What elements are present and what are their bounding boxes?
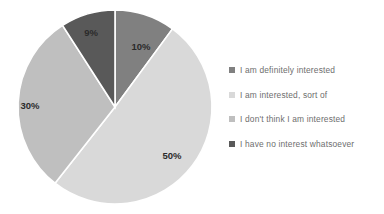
legend-item-label: I am definitely interested: [240, 65, 335, 75]
pie-slice-label: 9%: [84, 27, 98, 38]
legend-swatch-icon: [229, 141, 235, 147]
pie-slice-label: 10%: [131, 41, 151, 52]
legend-item-label: I don't think I am interested: [240, 114, 345, 124]
legend-item[interactable]: I don't think I am interested: [229, 107, 384, 132]
pie-slice-label: 30%: [20, 100, 40, 111]
legend-item-label: I have no interest whatsoever: [240, 139, 354, 149]
pie-svg: 10%50%30%9%: [0, 0, 224, 214]
pie-chart: 10%50%30%9% I am definitely interested I…: [0, 0, 384, 214]
legend-item[interactable]: I am definitely interested: [229, 58, 384, 83]
legend-swatch-icon: [229, 116, 235, 122]
pie-slice-group: [18, 10, 212, 204]
pie-slice-label: 50%: [162, 150, 182, 161]
legend-swatch-icon: [229, 92, 235, 98]
legend-item[interactable]: I am interested, sort of: [229, 83, 384, 108]
pie-plot-area: 10%50%30%9%: [0, 0, 224, 214]
legend-swatch-icon: [229, 67, 235, 73]
chart-legend: I am definitely interested I am interest…: [229, 58, 384, 156]
legend-item-label: I am interested, sort of: [240, 90, 327, 100]
legend-item[interactable]: I have no interest whatsoever: [229, 132, 384, 157]
